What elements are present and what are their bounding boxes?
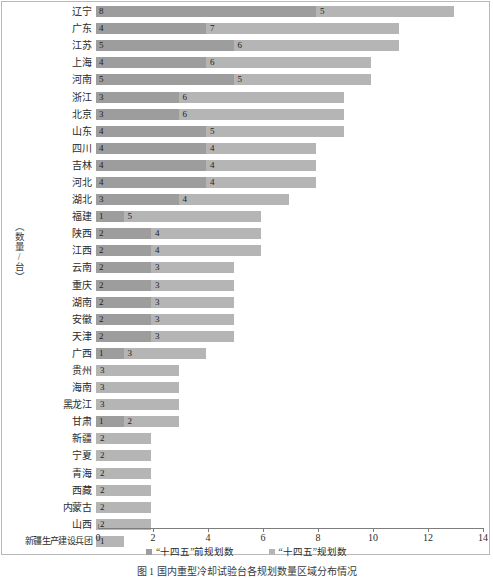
bar-segment-plan[interactable]: 5 <box>316 6 454 17</box>
bar-segment-prev[interactable]: 4 <box>96 177 206 188</box>
category-label: 广东 <box>0 23 96 34</box>
stacked-bar[interactable]: 36 <box>96 109 344 120</box>
bar-row: 宁夏2 <box>0 447 493 464</box>
bar-row: 内蒙古2 <box>0 499 493 516</box>
stacked-bar[interactable]: 23 <box>96 280 234 291</box>
stacked-bar[interactable]: 13 <box>96 348 206 359</box>
bar-segment-plan[interactable]: 5 <box>206 126 344 137</box>
stacked-bar[interactable]: 15 <box>96 211 261 222</box>
stacked-bar[interactable]: 44 <box>96 160 316 171</box>
bar-value-label: 5 <box>99 39 104 51</box>
stacked-bar[interactable]: 23 <box>96 331 234 342</box>
bar-segment-prev[interactable]: 2 <box>96 297 151 308</box>
bar-segment-plan[interactable]: 6 <box>179 92 344 103</box>
bar-segment-prev[interactable]: 4 <box>96 126 206 137</box>
bar-segment-plan[interactable]: 5 <box>234 74 372 85</box>
bar-segment-plan[interactable]: 3 <box>96 382 179 393</box>
bar-segment-plan[interactable]: 6 <box>179 109 344 120</box>
stacked-bar[interactable]: 2 <box>96 485 151 496</box>
stacked-bar[interactable]: 3 <box>96 382 179 393</box>
stacked-bar[interactable]: 44 <box>96 143 316 154</box>
bar-segment-plan[interactable]: 3 <box>151 280 234 291</box>
bar-value-label: 3 <box>155 313 160 325</box>
bar-segment-prev[interactable]: 2 <box>96 331 151 342</box>
stacked-bar[interactable]: 3 <box>96 365 179 376</box>
bar-segment-prev[interactable]: 4 <box>96 57 206 68</box>
bar-value-label: 3 <box>99 91 104 103</box>
stacked-bar[interactable]: 36 <box>96 92 344 103</box>
bar-segment-prev[interactable]: 2 <box>96 228 151 239</box>
bar-segment-prev[interactable]: 2 <box>96 262 151 273</box>
bar-segment-prev[interactable]: 8 <box>96 6 316 17</box>
bar-segment-prev[interactable]: 3 <box>96 92 179 103</box>
bar-segment-plan[interactable]: 3 <box>96 365 179 376</box>
bar-segment-prev[interactable]: 1 <box>96 416 124 427</box>
stacked-bar[interactable]: 23 <box>96 314 234 325</box>
bar-segment-plan[interactable]: 3 <box>96 399 179 410</box>
bar-segment-plan[interactable]: 4 <box>206 177 316 188</box>
bar-segment-plan[interactable]: 4 <box>206 160 316 171</box>
bar-segment-prev[interactable]: 1 <box>96 211 124 222</box>
bar-segment-plan[interactable]: 3 <box>151 314 234 325</box>
bar-segment-prev[interactable]: 4 <box>96 23 206 34</box>
bar-segment-prev[interactable]: 3 <box>96 109 179 120</box>
bar-value-label: 4 <box>99 22 104 34</box>
bar-segment-prev[interactable]: 5 <box>96 74 234 85</box>
bar-segment-plan[interactable]: 2 <box>124 416 179 427</box>
legend-item-prev[interactable]: “十四五”前规划数 <box>146 546 234 558</box>
bar-segment-prev[interactable]: 3 <box>96 194 179 205</box>
stacked-bar[interactable]: 34 <box>96 194 289 205</box>
bar-value-label: 5 <box>99 73 104 85</box>
bar-segment-plan[interactable]: 2 <box>96 485 151 496</box>
bar-value-label: 7 <box>210 22 215 34</box>
bar-segment-prev[interactable]: 2 <box>96 245 151 256</box>
bar-segment-plan[interactable]: 3 <box>124 348 207 359</box>
bar-segment-plan[interactable]: 5 <box>124 211 262 222</box>
stacked-bar[interactable]: 2 <box>96 468 151 479</box>
stacked-bar[interactable]: 23 <box>96 297 234 308</box>
bar-segment-plan[interactable]: 2 <box>96 468 151 479</box>
x-axis-tick-label: 8 <box>316 532 321 544</box>
bar-value-label: 2 <box>100 484 105 496</box>
bar-row: 福建15 <box>0 208 493 225</box>
category-label: 上海 <box>0 57 96 68</box>
bar-segment-plan[interactable]: 4 <box>151 245 261 256</box>
legend-item-plan[interactable]: “十四五”规划数 <box>269 546 347 558</box>
bar-row: 甘肃12 <box>0 413 493 430</box>
category-label: 湖北 <box>0 194 96 205</box>
bar-segment-plan[interactable]: 6 <box>234 40 399 51</box>
stacked-bar[interactable]: 45 <box>96 126 344 137</box>
bar-segment-prev[interactable]: 2 <box>96 280 151 291</box>
stacked-bar[interactable]: 55 <box>96 74 371 85</box>
stacked-bar[interactable]: 24 <box>96 245 261 256</box>
stacked-bar[interactable]: 23 <box>96 262 234 273</box>
stacked-bar[interactable]: 24 <box>96 228 261 239</box>
bar-segment-prev[interactable]: 2 <box>96 314 151 325</box>
bar-value-label: 4 <box>99 176 104 188</box>
bar-segment-plan[interactable]: 2 <box>96 450 151 461</box>
stacked-bar[interactable]: 47 <box>96 23 399 34</box>
bar-segment-plan[interactable]: 3 <box>151 331 234 342</box>
stacked-bar[interactable]: 2 <box>96 502 151 513</box>
bar-segment-prev[interactable]: 4 <box>96 143 206 154</box>
stacked-bar[interactable]: 46 <box>96 57 371 68</box>
stacked-bar[interactable]: 2 <box>96 433 151 444</box>
bar-segment-plan[interactable]: 3 <box>151 297 234 308</box>
stacked-bar[interactable]: 44 <box>96 177 316 188</box>
stacked-bar[interactable]: 12 <box>96 416 179 427</box>
bar-segment-plan[interactable]: 4 <box>206 143 316 154</box>
stacked-bar[interactable]: 56 <box>96 40 399 51</box>
bar-segment-plan[interactable]: 4 <box>179 194 289 205</box>
stacked-bar[interactable]: 3 <box>96 399 179 410</box>
bar-segment-prev[interactable]: 1 <box>96 348 124 359</box>
bar-segment-prev[interactable]: 5 <box>96 40 234 51</box>
stacked-bar[interactable]: 85 <box>96 6 454 17</box>
bar-segment-prev[interactable]: 4 <box>96 160 206 171</box>
bar-segment-plan[interactable]: 3 <box>151 262 234 273</box>
bar-segment-plan[interactable]: 2 <box>96 433 151 444</box>
bar-segment-plan[interactable]: 4 <box>151 228 261 239</box>
bar-segment-plan[interactable]: 6 <box>206 57 371 68</box>
stacked-bar[interactable]: 2 <box>96 450 151 461</box>
bar-segment-plan[interactable]: 2 <box>96 502 151 513</box>
bar-segment-plan[interactable]: 7 <box>206 23 399 34</box>
